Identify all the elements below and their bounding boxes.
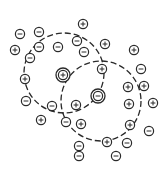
anion-icon — [21, 96, 30, 105]
anion-icon — [61, 117, 70, 126]
anion-icon — [34, 27, 43, 36]
cation-icon — [123, 82, 132, 91]
anion-icon — [74, 141, 83, 150]
anion-icon — [53, 42, 62, 51]
diagram-canvas — [0, 0, 165, 173]
anion-icon — [25, 53, 34, 62]
cation-icon — [97, 64, 106, 73]
ion-layer — [10, 19, 157, 160]
anion-icon — [144, 126, 153, 135]
central-anion-icon — [91, 89, 105, 103]
cation-icon — [20, 74, 29, 83]
cation-icon — [125, 120, 134, 129]
ionic-atmosphere-diagram — [0, 0, 165, 173]
anion-icon — [72, 36, 81, 45]
cation-icon — [148, 98, 157, 107]
anion-icon — [47, 101, 56, 110]
cation-icon — [124, 99, 133, 108]
cation-icon — [78, 19, 87, 28]
central-cation-icon — [56, 68, 70, 82]
cation-icon — [102, 137, 111, 146]
cation-icon — [76, 119, 85, 128]
anion-icon — [34, 42, 43, 51]
cation-icon — [10, 45, 19, 54]
cation-icon — [71, 100, 80, 109]
cation-icon — [139, 81, 148, 90]
anion-icon — [15, 29, 24, 38]
cation-icon — [36, 115, 45, 124]
anion-icon — [74, 151, 83, 160]
cation-icon — [129, 45, 138, 54]
central-ion-layer — [56, 68, 105, 103]
anion-icon — [136, 64, 145, 73]
cation-icon — [100, 39, 109, 48]
anion-icon — [111, 151, 120, 160]
anion-icon — [79, 47, 88, 56]
anion-icon — [122, 138, 131, 147]
